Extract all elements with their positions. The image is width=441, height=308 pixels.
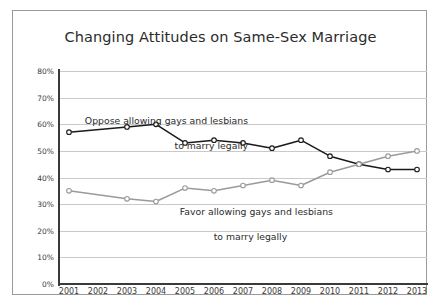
data-point-marker: [67, 189, 72, 194]
data-point-marker: [270, 146, 275, 151]
data-point-marker: [270, 178, 275, 183]
data-point-marker: [299, 183, 304, 188]
data-point-marker: [154, 199, 159, 204]
data-point-marker: [415, 167, 420, 172]
data-point-marker: [386, 154, 391, 159]
data-point-marker: [357, 162, 362, 167]
data-point-marker: [212, 189, 217, 194]
annotation-oppose-label: Oppose allowing gays and lesbians to mar…: [73, 103, 248, 177]
annotation-oppose-line1: Oppose allowing gays and lesbians: [85, 115, 248, 126]
data-point-marker: [386, 167, 391, 172]
chart-frame: Changing Attitudes on Same-Sex Marriage …: [12, 10, 427, 295]
annotation-favor-line1: Favor allowing gays and lesbians: [180, 206, 333, 217]
data-point-marker: [125, 197, 130, 202]
data-point-marker: [328, 170, 333, 175]
data-point-marker: [415, 149, 420, 154]
annotation-oppose-line2: to marry legally: [73, 140, 248, 152]
data-point-marker: [299, 138, 304, 143]
data-point-marker: [241, 183, 246, 188]
data-point-marker: [328, 154, 333, 159]
annotation-favor-label: Favor allowing gays and lesbians to marr…: [168, 194, 333, 268]
annotation-favor-line2: to marry legally: [168, 231, 333, 243]
data-point-marker: [183, 186, 188, 191]
data-point-marker: [67, 130, 72, 135]
